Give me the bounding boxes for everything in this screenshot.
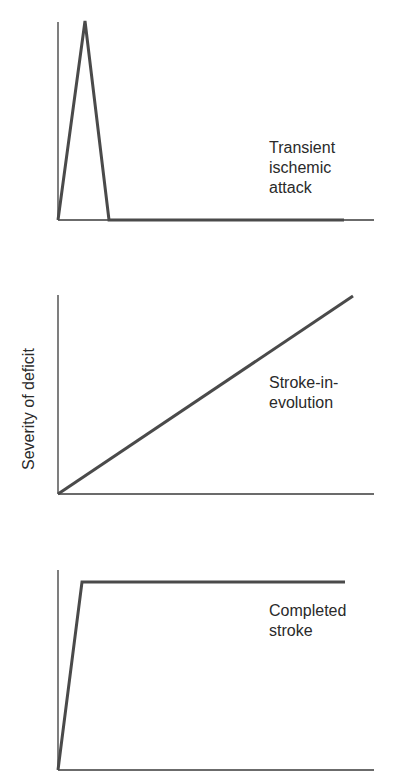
tia-label: Transient ischemic attack (269, 138, 335, 198)
cs-label-line-2: stroke (269, 621, 346, 641)
tia-label-line-2: ischemic (269, 158, 335, 178)
cs-label-line-1: Completed (269, 601, 346, 621)
panel-completed-stroke (58, 570, 374, 770)
tia-label-line-3: attack (269, 178, 335, 198)
sie-label: Stroke-in- evolution (269, 373, 338, 413)
sie-label-line-1: Stroke-in- (269, 373, 338, 393)
sie-label-line-2: evolution (269, 393, 338, 413)
y-axis-label: Severity of deficit (20, 348, 38, 470)
cs-label: Completed stroke (269, 601, 346, 641)
tia-label-line-1: Transient (269, 138, 335, 158)
